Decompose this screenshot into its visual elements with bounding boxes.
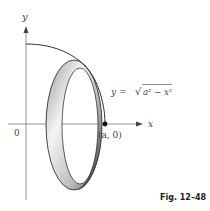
x-axis-arrow-icon	[136, 122, 143, 127]
svg-text:a² − x²: a² − x²	[143, 87, 173, 97]
y-axis	[24, 26, 29, 200]
origin-label: 0	[14, 128, 20, 138]
figure-diagram: y x 0 (a, 0) y = √ a² − x² Fig. 12–48	[0, 0, 210, 211]
x-axis-label: x	[148, 119, 153, 129]
point-label: (a, 0)	[98, 130, 122, 140]
curve-formula: y = √ a² − x²	[110, 85, 173, 98]
svg-text:y =: y =	[110, 87, 127, 97]
y-axis-label: y	[21, 11, 28, 22]
figure-caption: Fig. 12–48	[160, 193, 206, 202]
point-a-0	[103, 122, 108, 127]
ring-inner-edge	[62, 68, 98, 184]
svg-text:√: √	[135, 86, 142, 97]
y-axis-arrow-icon	[24, 26, 29, 33]
x-axis	[8, 122, 143, 127]
ring-band	[46, 60, 102, 190]
